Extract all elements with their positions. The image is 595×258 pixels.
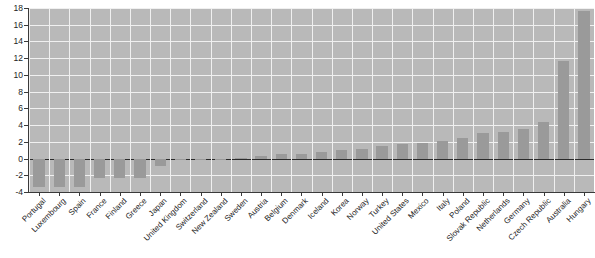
x-tick-mark: [422, 192, 423, 196]
y-tick-mark: [24, 125, 29, 126]
x-tick-label: Finland: [104, 197, 128, 221]
x-tick-mark: [100, 192, 101, 196]
x-tick-mark: [140, 192, 141, 196]
x-tick-mark: [39, 192, 40, 196]
x-tick-mark: [503, 192, 504, 196]
x-tick-mark: [443, 192, 444, 196]
x-tick-label: Greece: [124, 197, 148, 221]
x-tick-mark: [120, 192, 121, 196]
x-tick-mark: [544, 192, 545, 196]
x-tick-mark: [180, 192, 181, 196]
bar-chart: 181614121086420-2-4 PortugalLuxembourgSp…: [0, 0, 595, 258]
x-tick-mark: [564, 192, 565, 196]
y-tick-mark: [24, 175, 29, 176]
x-tick-mark: [322, 192, 323, 196]
x-tick-mark: [59, 192, 60, 196]
y-tick-mark: [24, 192, 29, 193]
x-tick-mark: [463, 192, 464, 196]
y-tick-mark: [24, 58, 29, 59]
x-tick-mark: [221, 192, 222, 196]
x-tick-label: Mexico: [408, 197, 432, 221]
x-tick-mark: [261, 192, 262, 196]
x-tick-label: Italy: [435, 197, 451, 213]
y-tick-mark: [24, 142, 29, 143]
x-tick-mark: [241, 192, 242, 196]
x-tick-mark: [584, 192, 585, 196]
y-tick-mark: [24, 159, 29, 160]
y-tick-mark: [24, 75, 29, 76]
y-tick-mark: [24, 92, 29, 93]
y-tick-mark: [24, 108, 29, 109]
y-tick-mark: [24, 41, 29, 42]
y-tick-mark: [24, 25, 29, 26]
x-tick-mark: [201, 192, 202, 196]
x-tick-mark: [362, 192, 363, 196]
x-tick-mark: [382, 192, 383, 196]
y-tick-mark: [24, 8, 29, 9]
x-tick-mark: [523, 192, 524, 196]
x-tick-mark: [160, 192, 161, 196]
x-tick-mark: [483, 192, 484, 196]
x-tick-mark: [79, 192, 80, 196]
x-axis: PortugalLuxembourgSpainFranceFinlandGree…: [0, 0, 595, 258]
x-tick-mark: [281, 192, 282, 196]
x-tick-mark: [402, 192, 403, 196]
x-tick-mark: [342, 192, 343, 196]
x-tick-mark: [301, 192, 302, 196]
x-tick-label: Iceland: [306, 197, 330, 221]
